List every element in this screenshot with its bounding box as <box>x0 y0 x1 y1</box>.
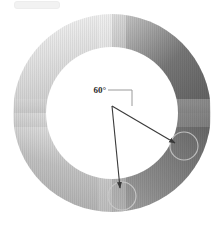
ring-hatch-texture <box>0 0 224 228</box>
angle-value-label: 60° <box>80 85 106 95</box>
annulus-angle-diagram <box>0 0 224 228</box>
annulus-ring <box>0 0 224 228</box>
